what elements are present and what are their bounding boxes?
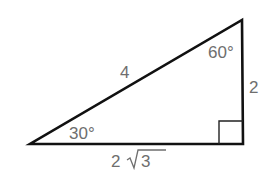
right-angle-marker: [219, 121, 243, 144]
angle-left-label: 30°: [69, 124, 95, 143]
base-label: 2 3: [111, 150, 166, 171]
triangle-diagram: 4 2 60° 30° 2 3: [0, 0, 273, 173]
triangle: [30, 20, 243, 144]
hypotenuse-label: 4: [120, 63, 129, 82]
vertical-side-label: 2: [249, 78, 258, 97]
base-label-prefix: 2: [111, 152, 120, 171]
base-label-radicand: 3: [141, 152, 150, 171]
angle-top-label: 60°: [208, 43, 234, 62]
